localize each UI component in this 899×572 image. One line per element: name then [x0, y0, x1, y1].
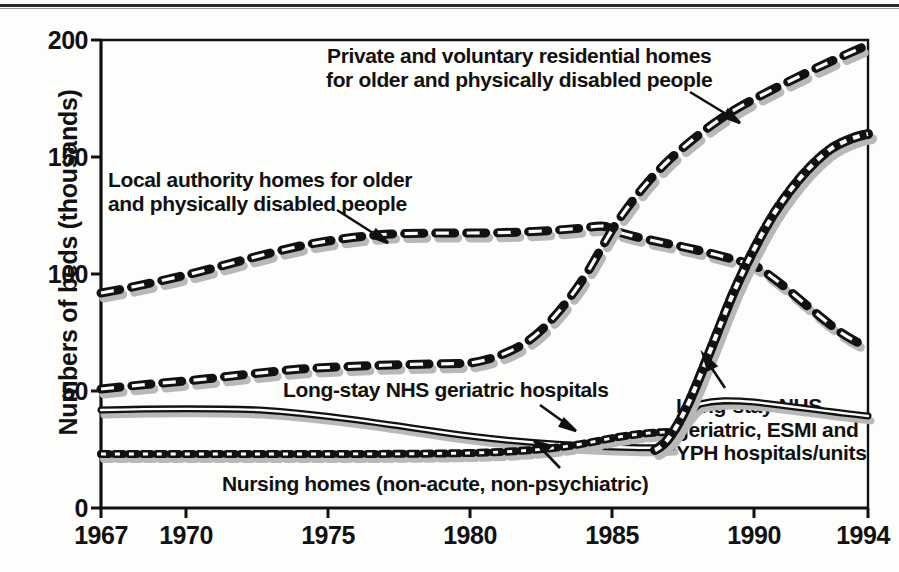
chart-figure: Numbers of beds (thousands) 200 150 100 … — [0, 0, 899, 572]
series-private-voluntary-homes — [101, 45, 871, 394]
series-nursing-homes — [101, 432, 675, 459]
series-longstay-nhs-esmi-yph — [672, 401, 871, 445]
chart-plot-area — [0, 0, 899, 572]
